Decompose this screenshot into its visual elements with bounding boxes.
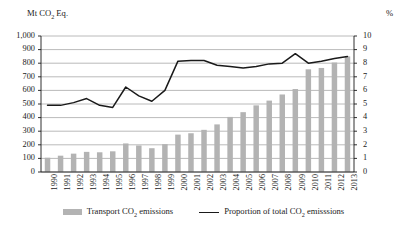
left-tick-label: 800 [23,59,35,67]
x-tick-label: 2012 [338,174,346,190]
left-tick-label: 600 [23,86,35,94]
right-tick-label: 4 [363,113,367,121]
x-tick-label: 2013 [351,174,359,190]
left-tick-label: 200 [23,141,35,149]
x-tick-label: 1990 [51,174,59,190]
line-series [48,54,348,108]
x-tick-label: 2002 [207,174,215,190]
legend-label-proportion: Proportion of total CO2 emisssions [224,207,344,218]
left-tick-label: 900 [23,45,35,53]
right-tick-label: 2 [363,141,367,149]
left-tick-label: 500 [23,100,35,108]
left-axis-caption: Mt CO2 Eq. [27,9,68,20]
right-tick-label: 9 [363,45,367,53]
right-tick-label: 8 [363,59,367,67]
chart-legend: Transport CO2 emissions Proportion of to… [0,207,407,218]
right-tick-label: 5 [363,100,367,108]
x-tick-label: 1999 [168,174,176,190]
x-tick-label: 1994 [103,174,111,190]
x-tick-label: 1995 [116,174,124,190]
legend-label-transport: Transport CO2 emissions [87,207,173,218]
line-swatch-icon [199,212,219,213]
legend-item-transport: Transport CO2 emissions [63,207,173,218]
right-tick-label: 10 [363,32,371,40]
left-axis-ticks: 01002003004005006007008009001,000 [3,36,37,172]
x-tick-label: 2010 [312,174,320,190]
x-tick-label: 1996 [129,174,137,190]
x-tick-label: 2005 [246,174,254,190]
right-tick-label: 6 [363,86,367,94]
x-tick-label: 1991 [64,174,72,190]
x-tick-label: 2001 [194,174,202,190]
left-tick-label: 0 [31,168,35,176]
x-tick-label: 2007 [272,174,280,190]
x-tick-label: 1998 [155,174,163,190]
plot-area [41,36,354,172]
right-tick-label: 3 [363,127,367,135]
plot-svg [41,36,354,172]
right-axis-ticks: 012345678910 [357,36,379,172]
right-tick-label: 7 [363,73,367,81]
bar-swatch-icon [63,209,82,215]
right-axis-caption: % [386,9,393,18]
legend-item-proportion: Proportion of total CO2 emisssions [199,207,344,218]
right-tick-label: 1 [363,154,367,162]
x-tick-label: 2003 [220,174,228,190]
x-tick-label: 2004 [233,174,241,190]
x-tick-label: 2008 [285,174,293,190]
left-tick-label: 700 [23,73,35,81]
x-tick-label: 2006 [259,174,267,190]
x-tick-label: 2000 [181,174,189,190]
x-tick-label: 1992 [77,174,85,190]
x-tick-label: 1993 [90,174,98,190]
x-axis-labels: 1990199119921993199419951996199719981999… [41,174,354,202]
left-tick-label: 300 [23,127,35,135]
x-tick-label: 1997 [142,174,150,190]
x-tick-label: 2011 [325,174,333,190]
left-tick-label: 100 [23,154,35,162]
right-tick-label: 0 [363,168,367,176]
left-tick-label: 1,000 [16,32,35,40]
chart-container: Mt CO2 Eq. % 010020030040050060070080090… [0,0,407,230]
x-tick-label: 2009 [299,174,307,190]
bar-series [45,56,350,172]
left-tick-label: 400 [23,113,35,121]
